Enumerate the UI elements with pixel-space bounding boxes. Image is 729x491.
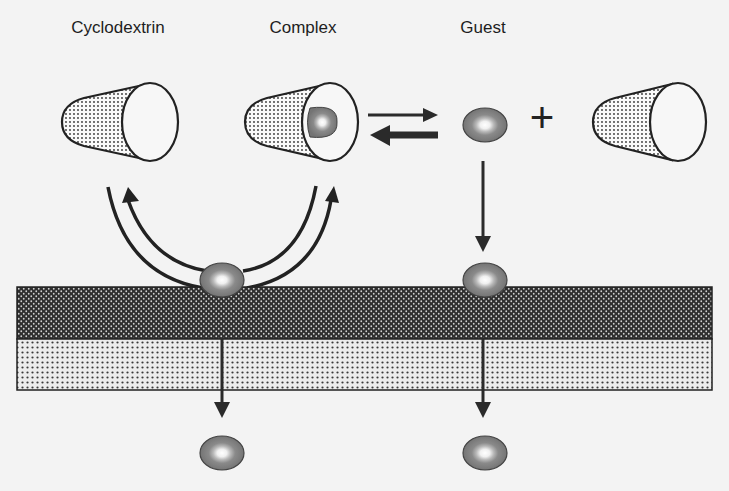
cyclodextrin-cone-free [62,83,178,161]
label-guest: Guest [460,18,506,37]
membrane-lower-layer [17,339,712,390]
cyclodextrin-cone-released [593,83,706,161]
guest-permeated-right [463,436,507,470]
plus-sign: + [530,94,555,141]
arrowhead-left-up [122,187,139,203]
cyclodextrin-diagram: Cyclodextrin Complex Guest + [0,0,729,491]
label-complex: Complex [269,18,337,37]
arrow-guest-to-membrane [475,161,491,252]
guest-permeated-left [200,436,244,470]
arrowhead-right-up [325,186,339,203]
guest-at-membrane-left [200,263,244,297]
guest-at-membrane-right [463,263,507,297]
membrane-upper-layer [17,287,712,339]
label-cyclodextrin: Cyclodextrin [71,18,165,37]
complex-cone [245,83,358,161]
equilibrium-arrows [368,108,438,146]
guest-free [463,108,507,142]
membrane [17,287,712,390]
